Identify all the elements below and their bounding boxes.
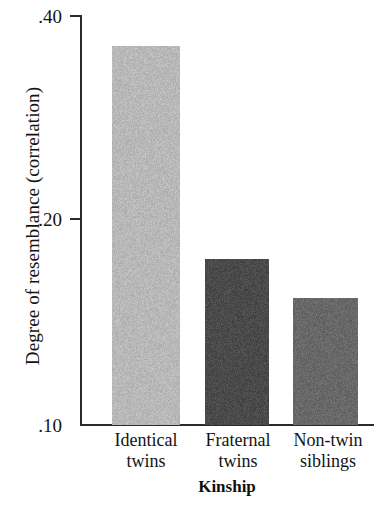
x-axis-category-label-identical-twins: Identical twins — [96, 430, 196, 472]
y-axis-tick-label-020: .20 — [2, 210, 62, 229]
bar-non-twin-siblings — [293, 298, 358, 425]
bar-fraternal-twins — [205, 259, 269, 425]
category-line-1: Identical — [96, 430, 196, 451]
x-axis-category-label-fraternal-twins: Fraternal twins — [188, 430, 288, 472]
bar-chart-figure: Degree of resemblance (correlation) .40 … — [0, 0, 381, 511]
x-axis-category-label-non-twin-siblings: Non-twin siblings — [278, 430, 378, 472]
category-line-2: twins — [188, 451, 288, 472]
bar-texture-fraternal-twins — [205, 259, 269, 425]
bar-identical-twins — [112, 46, 180, 425]
bar-texture-identical-twins — [112, 46, 180, 425]
category-line-1: Non-twin — [278, 430, 378, 451]
bar-texture-non-twin-siblings — [293, 298, 358, 425]
x-axis-title: Kinship — [80, 477, 374, 497]
category-line-2: twins — [96, 451, 196, 472]
category-line-2: siblings — [278, 451, 378, 472]
y-axis-tick-label-040: .40 — [2, 7, 62, 26]
y-axis-tick-label-010: .10 — [2, 416, 62, 435]
y-axis-line — [80, 15, 82, 426]
category-line-1: Fraternal — [188, 430, 288, 451]
